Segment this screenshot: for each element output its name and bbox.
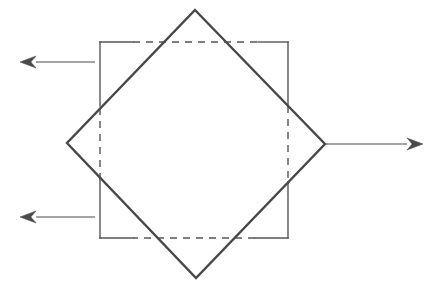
arrow-lower-left-head (20, 211, 36, 223)
arrow-lower-left (20, 211, 95, 223)
arrow-right (325, 138, 423, 150)
arrow-right-head (407, 138, 423, 150)
diagram-canvas (0, 0, 442, 296)
geometry-diagram (0, 0, 442, 296)
arrow-upper-left-head (20, 56, 36, 68)
arrow-upper-left (20, 56, 95, 68)
force-arrows (20, 56, 423, 223)
